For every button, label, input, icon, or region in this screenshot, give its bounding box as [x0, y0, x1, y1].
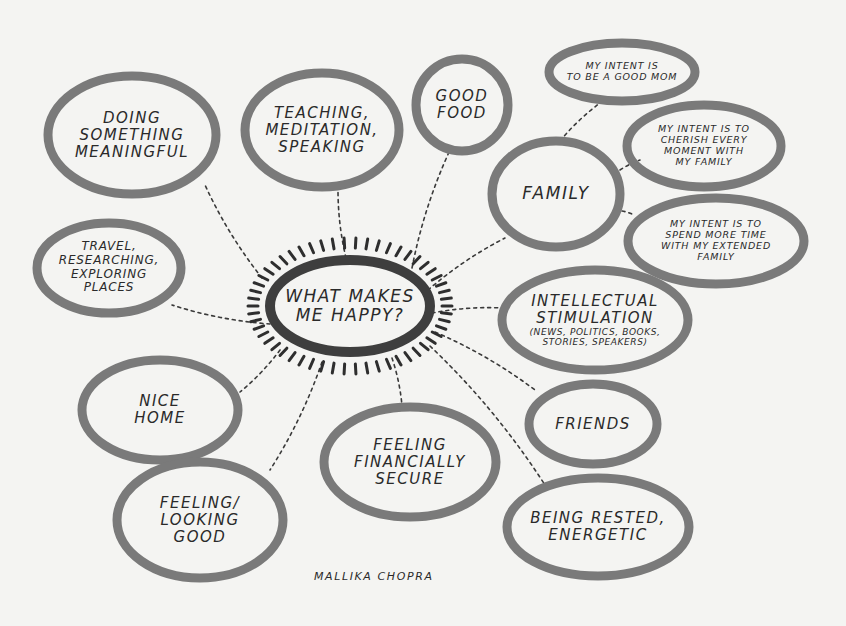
label-line: PLACES [59, 282, 159, 296]
sunburst-ray [432, 332, 441, 336]
label-line: SECURE [354, 470, 466, 487]
label-nice-home: NICEHOME [134, 393, 186, 427]
sunburst-ray [420, 343, 428, 349]
sunburst-ray [265, 269, 273, 274]
label-subline: (NEWS, POLITICS, BOOKS, [529, 327, 660, 337]
label-line: NICE [134, 393, 186, 410]
sunburst-ray [441, 313, 451, 314]
label-line: MY FAMILY [658, 157, 750, 168]
sunburst-ray [254, 326, 263, 329]
label-line: DOING [75, 110, 189, 127]
label-friends: FRIENDS [555, 416, 631, 433]
label-line: EXPLORING [59, 268, 159, 282]
sunburst-ray [332, 239, 334, 249]
sunburst-ray [265, 338, 273, 343]
sunburst-ray [396, 247, 401, 256]
sunburst-ray [321, 241, 324, 251]
sunburst-ray [280, 348, 287, 355]
label-meaningful: DOINGSOMETHINGMEANINGFUL [75, 110, 189, 160]
label-rested: BEING RESTED,ENERGETIC [530, 510, 666, 544]
sunburst-ray [272, 343, 280, 349]
label-line: FEELING [354, 437, 466, 454]
label-line: MEANINGFUL [75, 143, 189, 160]
sunburst-ray [289, 251, 295, 259]
label-teaching: TEACHING,MEDITATION,SPEAKING [265, 105, 378, 155]
sunburst-ray [254, 283, 263, 286]
connector-line [270, 362, 322, 470]
label-subline: STORIES, SPEAKERS) [529, 337, 660, 347]
connector-line [435, 332, 535, 390]
sunburst-ray [436, 283, 445, 286]
label-family: FAMILY [522, 184, 589, 203]
label-line: INTELLECTUAL [529, 293, 660, 310]
label-good-mom: MY INTENT ISTO BE A GOOD MOM [567, 61, 678, 83]
label-line: LOOKING [160, 512, 240, 529]
sunburst-ray [436, 326, 445, 329]
label-line: FAMILY [522, 184, 589, 203]
sunburst-ray [332, 363, 334, 373]
sunburst-ray [405, 353, 411, 361]
label-line: ENERGETIC [530, 527, 666, 544]
label-line: SPEAKING [265, 138, 378, 155]
label-good-food: GOODFOOD [436, 88, 489, 122]
sunburst-ray [259, 275, 268, 279]
mind-map-canvas [0, 0, 846, 626]
sunburst-ray [355, 364, 356, 374]
sunburst-ray [440, 290, 450, 292]
sunburst-ray [289, 353, 295, 361]
connector-line [428, 238, 505, 290]
sunburst-ray [420, 262, 428, 268]
signature: MALLIKA CHOPRA [314, 570, 434, 583]
sunburst-ray [405, 251, 411, 259]
label-line: MEDITATION, [265, 122, 378, 139]
label-line: WHAT MAKES [285, 287, 415, 306]
sunburst-ray [413, 348, 420, 355]
sunburst-ray [427, 269, 435, 274]
sunburst-ray [440, 319, 450, 321]
connector-line [412, 150, 450, 268]
label-line: FEELING/ [160, 495, 240, 512]
label-line: FAMILY [661, 252, 771, 263]
sunburst-ray [299, 356, 304, 365]
label-line: GOOD [436, 88, 489, 105]
sunburst-ray [366, 363, 368, 373]
sunburst-ray [376, 241, 379, 251]
sunburst-ray [366, 239, 368, 249]
sunburst-ray [310, 359, 314, 368]
label-line: STIMULATION [529, 310, 660, 327]
sunburst-ray [344, 238, 345, 248]
label-extended-family: MY INTENT IS TOSPEND MORE TIMEWITH MY EX… [661, 219, 771, 263]
sunburst-ray [251, 290, 261, 292]
label-intellectual: INTELLECTUALSTIMULATION(NEWS, POLITICS, … [529, 293, 660, 347]
sunburst-ray [310, 244, 314, 253]
sunburst-ray [376, 362, 379, 372]
label-line: HOME [134, 410, 186, 427]
label-line: TEACHING, [265, 105, 378, 122]
sunburst-ray [386, 359, 390, 368]
label-line: ME HAPPY? [285, 306, 415, 325]
label-cherish: MY INTENT IS TOCHERISH EVERYMOMENT WITHM… [658, 124, 750, 168]
connector-line [560, 103, 600, 141]
connector-line [240, 350, 280, 392]
label-line: FOOD [436, 105, 489, 122]
label-line: SOMETHING [75, 127, 189, 144]
label-line: RESEARCHING, [59, 254, 159, 268]
sunburst-ray [259, 332, 268, 336]
label-line: FINANCIALLY [354, 454, 466, 471]
sunburst-ray [249, 313, 259, 314]
sunburst-ray [251, 319, 261, 321]
sunburst-ray [272, 262, 280, 268]
label-looking-good: FEELING/LOOKINGGOOD [160, 495, 240, 545]
center-label: WHAT MAKESME HAPPY? [285, 287, 415, 325]
sunburst-ray [299, 247, 304, 256]
label-line: FRIENDS [555, 416, 631, 433]
sunburst-ray [441, 298, 451, 299]
label-line: TO BE A GOOD MOM [567, 72, 678, 83]
label-financially-secure: FEELINGFINANCIALLYSECURE [354, 437, 466, 487]
sunburst-ray [427, 338, 435, 343]
sunburst-ray [280, 257, 287, 264]
sunburst-ray [249, 298, 259, 299]
label-line: TRAVEL, [59, 240, 159, 254]
label-travel: TRAVEL,RESEARCHING,EXPLORINGPLACES [59, 240, 159, 295]
connector-line [205, 185, 262, 278]
